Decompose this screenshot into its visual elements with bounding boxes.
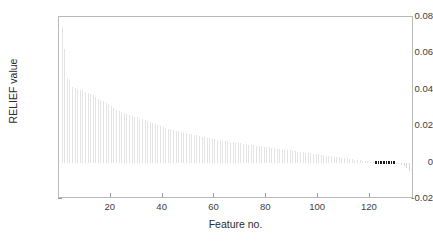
bar <box>253 145 254 162</box>
bar <box>409 163 410 172</box>
bar <box>62 27 63 163</box>
bar <box>367 161 368 162</box>
bar <box>303 152 304 162</box>
bar <box>108 104 109 163</box>
bar <box>77 89 78 163</box>
bar <box>98 99 99 163</box>
bar <box>183 133 184 163</box>
bar <box>313 154 314 163</box>
bar <box>134 117 135 163</box>
bar <box>194 135 195 163</box>
bar <box>238 143 239 162</box>
bar <box>82 90 83 162</box>
x-axis-tick-label: 100 <box>297 202 337 212</box>
bar <box>75 88 76 163</box>
bar <box>191 134 192 162</box>
bar <box>295 151 296 162</box>
bar <box>277 149 278 163</box>
bar <box>80 90 81 163</box>
bar <box>157 125 158 163</box>
bar <box>150 122 151 162</box>
bar <box>212 139 213 163</box>
bar <box>378 161 380 164</box>
bar <box>243 144 244 163</box>
bar <box>88 93 89 163</box>
bar <box>124 113 125 163</box>
bar <box>310 153 311 162</box>
bar <box>139 119 140 163</box>
bar <box>300 152 301 163</box>
bar <box>266 147 267 162</box>
bar <box>334 157 335 163</box>
bar <box>93 95 94 162</box>
bar <box>207 138 208 163</box>
bar <box>362 161 363 163</box>
y-axis-tick-mark <box>58 198 62 199</box>
bar <box>380 161 382 164</box>
bar <box>354 160 355 163</box>
bar <box>284 150 285 163</box>
bar <box>391 161 393 164</box>
bar <box>388 161 390 164</box>
bar <box>308 153 309 163</box>
bar <box>341 158 342 163</box>
bar <box>401 163 402 165</box>
bar <box>292 151 293 163</box>
bar <box>287 150 288 163</box>
bar <box>357 160 358 163</box>
bar <box>129 115 130 163</box>
bar <box>297 152 298 163</box>
bar <box>274 148 275 162</box>
bar <box>168 129 169 163</box>
bar <box>365 161 366 163</box>
bar <box>375 161 377 164</box>
bar <box>176 131 177 163</box>
bar <box>160 126 161 163</box>
bar <box>282 149 283 162</box>
bar <box>178 131 179 162</box>
bar <box>396 163 397 164</box>
bar <box>113 108 114 162</box>
y-axis-title-label: RELIEF value <box>7 59 19 124</box>
bar <box>85 92 86 163</box>
bar <box>163 127 164 163</box>
bar <box>173 130 174 162</box>
bar <box>360 160 361 162</box>
bar <box>339 157 340 162</box>
bar <box>235 143 236 163</box>
bar <box>383 161 385 164</box>
bar <box>126 114 127 163</box>
bar <box>64 49 65 163</box>
bar <box>225 141 226 162</box>
bar <box>72 87 73 163</box>
bar <box>393 161 395 164</box>
bar <box>227 141 228 162</box>
relief-value-chart: RELIEF value 0.080.060.040.020-0.02 2040… <box>0 0 433 243</box>
y-axis-title: RELIEF value <box>6 0 20 182</box>
bar <box>321 155 322 163</box>
bar <box>259 146 260 163</box>
x-axis-tick-label: 40 <box>142 202 182 212</box>
x-axis-tick-mark <box>110 193 111 197</box>
bar <box>326 156 327 163</box>
bar <box>349 159 350 163</box>
bar <box>204 137 205 162</box>
x-axis-tick-label: 120 <box>349 202 389 212</box>
bar <box>248 145 249 163</box>
bar <box>121 112 122 163</box>
bar <box>240 143 241 162</box>
bar <box>328 156 329 163</box>
bar-series <box>59 17 412 197</box>
bar <box>271 148 272 163</box>
bar <box>256 146 257 163</box>
plot-area <box>58 16 413 198</box>
bar <box>132 116 133 163</box>
bar <box>220 140 221 162</box>
bar <box>261 146 262 162</box>
bar <box>147 121 148 163</box>
bar <box>264 147 265 163</box>
x-axis-tick-mark <box>162 193 163 197</box>
x-axis-tick-mark <box>369 193 370 197</box>
bar <box>373 162 374 163</box>
bar <box>165 128 166 163</box>
